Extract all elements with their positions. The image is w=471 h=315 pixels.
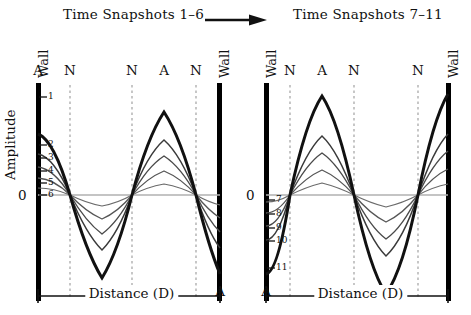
x-axis-label: Distance (D) [314, 285, 407, 301]
tick-label: 9 [276, 222, 282, 232]
diagram-canvas: Time Snapshots 1–6 Time Snapshots 7–11 A… [0, 0, 471, 315]
tick-label: 11 [276, 262, 287, 272]
zero-label-right: 0 [246, 187, 255, 203]
antinode-label-top: A [156, 62, 172, 78]
tick-label: 6 [48, 189, 54, 199]
tick-label: 2 [48, 139, 54, 149]
x-axis-label: Distance (D) [85, 285, 178, 301]
node-label-top: N [346, 62, 362, 78]
tick-label: 8 [276, 208, 282, 218]
node-label-top: N [410, 62, 426, 78]
panel-snapshots-1-6: Wall Wall 0 [24, 40, 239, 302]
antinode-label-top: A [314, 62, 330, 78]
tick-marks [39, 97, 47, 195]
node-label-top: N [124, 62, 140, 78]
header-left-title: Time Snapshots 1–6 [63, 6, 204, 22]
wave-plot-left [24, 40, 239, 302]
distance-bracket-right: Distance (D) [258, 285, 463, 307]
node-label-top: N [188, 62, 204, 78]
header: Time Snapshots 1–6 Time Snapshots 7–11 [0, 6, 471, 32]
tick-marks [267, 200, 275, 268]
y-axis-label: Amplitude [2, 109, 18, 180]
node-label-top: N [62, 62, 78, 78]
right-arrow-icon [205, 14, 267, 26]
tick-label: 5 [48, 177, 54, 187]
panel-snapshots-7-11: Wall Wall 0 N [258, 40, 463, 302]
tick-label: 3 [48, 152, 54, 162]
distance-bracket-left: Distance (D) [24, 285, 239, 307]
wave-plot-right [258, 40, 463, 302]
antinode-label-top: A [30, 62, 46, 78]
tick-label: 1 [48, 91, 54, 101]
tick-label: 7 [276, 194, 282, 204]
header-right-title: Time Snapshots 7–11 [293, 6, 443, 22]
tick-label: 4 [48, 165, 54, 175]
node-label-top: N [282, 62, 298, 78]
tick-label: 10 [276, 235, 287, 245]
